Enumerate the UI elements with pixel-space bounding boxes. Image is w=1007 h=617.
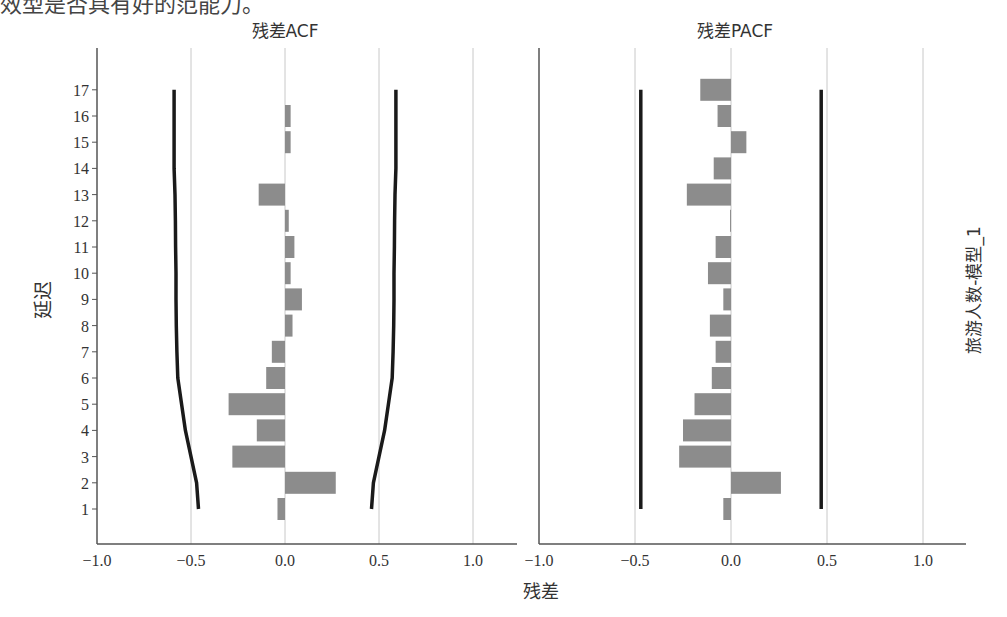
correlation-bar xyxy=(285,105,291,127)
y-tick-label: 5 xyxy=(81,396,89,413)
y-tick-label: 14 xyxy=(73,160,89,177)
correlation-bar xyxy=(285,472,336,494)
y-tick-label: 2 xyxy=(81,475,89,492)
correlation-bar xyxy=(700,79,731,101)
y-tick-label: 1 xyxy=(81,501,89,518)
correlation-bar xyxy=(285,236,294,258)
correlation-bar xyxy=(257,419,285,441)
acf-title: 残差ACF xyxy=(252,21,319,41)
y-tick-label: 4 xyxy=(81,422,89,439)
x-tick-label: −1.0 xyxy=(524,552,553,569)
caption-text-fragment: 效型是否具有好的范能力。 xyxy=(0,0,264,18)
correlation-bar xyxy=(266,367,285,389)
correlation-bar xyxy=(716,236,731,258)
y-tick-label: 6 xyxy=(81,370,89,387)
x-tick-label: 0.5 xyxy=(817,552,837,569)
correlation-bar xyxy=(285,288,302,310)
correlation-bar xyxy=(687,184,731,206)
series-label: 旅游人数-模型_1 xyxy=(964,226,985,353)
x-axis-label: 残差 xyxy=(523,581,559,602)
y-tick-label: 9 xyxy=(81,291,89,308)
correlation-bar xyxy=(695,393,731,415)
correlation-bar xyxy=(714,157,731,179)
correlation-bar xyxy=(710,315,731,337)
correlation-bar xyxy=(259,184,285,206)
x-tick-label: 0.0 xyxy=(721,552,741,569)
correlation-bar xyxy=(285,262,291,284)
y-tick-label: 17 xyxy=(73,82,89,99)
y-tick-label: 12 xyxy=(73,213,89,230)
pacf-panel: −1.0−0.50.00.51.0 xyxy=(524,48,966,569)
y-axis-label: 延迟 xyxy=(32,281,54,319)
correlation-bar xyxy=(285,315,293,337)
lower-confidence-bound xyxy=(174,90,198,509)
pacf-title: 残差PACF xyxy=(697,21,773,41)
correlation-bar xyxy=(731,472,781,494)
correlation-bar xyxy=(723,498,731,520)
x-tick-label: −0.5 xyxy=(620,552,649,569)
y-tick-label: 11 xyxy=(74,239,89,256)
y-tick-label: 13 xyxy=(73,187,89,204)
x-tick-label: 0.0 xyxy=(275,552,295,569)
correlation-bar xyxy=(272,341,285,363)
correlation-bar xyxy=(730,210,731,232)
correlation-bar xyxy=(716,341,731,363)
correlation-bar xyxy=(232,446,285,468)
x-tick-label: 1.0 xyxy=(913,552,933,569)
correlation-bar xyxy=(277,498,285,520)
acf-panel: −1.0−0.50.00.51.012345678910111213141516… xyxy=(73,48,517,569)
correlation-bar xyxy=(229,393,285,415)
x-tick-label: 0.5 xyxy=(369,552,389,569)
correlation-bar xyxy=(285,131,291,153)
y-tick-label: 3 xyxy=(81,449,89,466)
y-tick-label: 8 xyxy=(81,318,89,335)
correlation-bar xyxy=(683,419,731,441)
x-tick-label: −0.5 xyxy=(176,552,205,569)
x-tick-label: −1.0 xyxy=(82,552,111,569)
y-tick-label: 10 xyxy=(73,265,89,282)
correlation-bar xyxy=(679,446,731,468)
y-tick-label: 7 xyxy=(81,344,89,361)
y-tick-label: 16 xyxy=(73,108,89,125)
correlation-bar xyxy=(718,105,731,127)
correlation-bar xyxy=(285,210,289,232)
correlation-bar xyxy=(712,367,731,389)
upper-confidence-bound xyxy=(372,90,396,509)
correlation-bar xyxy=(708,262,731,284)
y-tick-label: 15 xyxy=(73,134,89,151)
x-tick-label: 1.0 xyxy=(463,552,483,569)
correlation-bar xyxy=(731,131,746,153)
correlation-bar xyxy=(723,288,731,310)
acf-pacf-figure: −1.0−0.50.00.51.012345678910111213141516… xyxy=(0,0,1007,617)
